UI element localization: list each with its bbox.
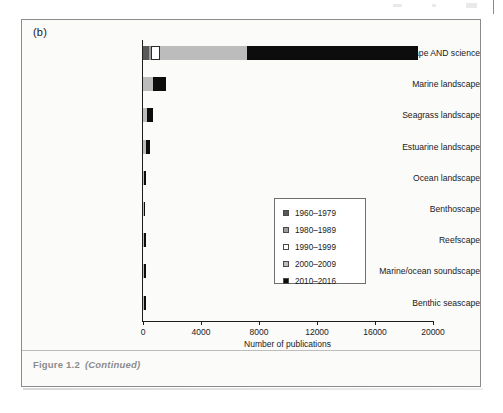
stacked-bar[interactable] — [143, 171, 146, 185]
bar-segment — [144, 233, 146, 247]
legend-label: 1960–1979 — [295, 209, 336, 218]
legend-label: 2010–2016 — [295, 277, 336, 286]
legend-item[interactable]: 1960–1979 — [283, 205, 365, 221]
scan-speck — [466, 3, 477, 8]
x-axis-tick — [375, 321, 376, 325]
y-axis-category-label: Benthic seascape — [364, 290, 480, 316]
stacked-bar[interactable] — [143, 264, 146, 278]
caption-divider — [22, 350, 480, 351]
x-axis-tick — [259, 321, 260, 325]
y-axis-line — [142, 40, 143, 321]
legend-item[interactable]: 2010–2016 — [283, 273, 365, 289]
bar-segment — [146, 140, 151, 154]
figure-shadow — [23, 388, 483, 390]
stacked-bar[interactable] — [143, 108, 153, 122]
stacked-bar[interactable] — [143, 77, 166, 91]
x-axis-tick — [143, 321, 144, 325]
bar-segment — [160, 46, 247, 60]
x-axis-tick-label: 16000 — [363, 327, 387, 337]
stacked-bar[interactable] — [143, 296, 146, 310]
chart-category-row: Reefscape — [22, 227, 480, 253]
y-axis-category-label: Ocean landscape — [364, 165, 480, 191]
y-axis-category-label: Marine landscape — [364, 71, 480, 97]
bar-segment — [144, 264, 146, 278]
y-axis-category-label: Marine/ocean soundscape — [364, 258, 480, 284]
y-axis-category-label: Seagrass landscape — [364, 102, 480, 128]
chart-category-row: Estuarine landscape — [22, 134, 480, 160]
chart-category-row: Marine landscape — [22, 71, 480, 97]
bar-segment — [144, 171, 147, 185]
figure-panel: (b) Seascape AND scienceMarine landscape… — [21, 19, 481, 387]
x-axis-tick-label: 0 — [141, 327, 146, 337]
legend-item-list: 1960–19791980–19891990–19992000–20092010… — [283, 205, 365, 289]
page-edge-rule — [493, 0, 494, 14]
chart-plot-area: (b) Seascape AND scienceMarine landscape… — [22, 20, 480, 350]
chart-category-row: Seagrass landscape — [22, 102, 480, 128]
y-axis-category-label: Reefscape — [364, 227, 480, 253]
chart-category-row: Marine/ocean soundscape — [22, 258, 480, 284]
legend-swatch — [283, 227, 289, 233]
panel-label: (b) — [33, 26, 47, 38]
legend-item[interactable]: 2000–2009 — [283, 256, 365, 272]
x-axis-tick — [433, 321, 434, 325]
scan-speck — [432, 4, 436, 7]
figure-caption: Figure 1.2(Continued) — [33, 359, 140, 370]
chart-category-row: Benthoscape — [22, 196, 480, 222]
chart-category-row: Benthic seascape — [22, 290, 480, 316]
bar-segment — [247, 46, 419, 60]
scan-artifact-strip — [0, 0, 503, 14]
legend-label: 1990–1999 — [295, 243, 336, 252]
bar-segment — [144, 296, 146, 310]
x-axis-tick — [201, 321, 202, 325]
figure-caption-continued: (Continued) — [85, 359, 141, 370]
legend-item[interactable]: 1980–1989 — [283, 222, 365, 238]
x-axis-tick-label: 4000 — [192, 327, 211, 337]
chart-category-row: Ocean landscape — [22, 165, 480, 191]
y-axis-category-label: Benthoscape — [364, 196, 480, 222]
bar-segment — [151, 46, 160, 60]
bar-segment — [153, 77, 166, 91]
x-axis-tick-label: 12000 — [305, 327, 329, 337]
y-axis-category-label: Estuarine landscape — [364, 134, 480, 160]
x-axis-title: Number of publications — [142, 339, 433, 349]
bar-segment — [144, 202, 146, 216]
x-axis-tick-label: 8000 — [250, 327, 269, 337]
legend-swatch — [283, 210, 289, 216]
x-axis-tick — [317, 321, 318, 325]
legend-label: 2000–2009 — [295, 260, 336, 269]
legend-item[interactable]: 1990–1999 — [283, 239, 365, 255]
stacked-bar[interactable] — [143, 140, 150, 154]
chart-legend: 1960–19791980–19891990–19992000–20092010… — [274, 198, 366, 284]
bar-segment — [147, 108, 153, 122]
legend-swatch — [283, 261, 289, 267]
legend-label: 1980–1989 — [295, 226, 336, 235]
x-axis-line — [142, 321, 433, 322]
legend-swatch — [283, 278, 289, 284]
bar-segment — [143, 77, 153, 91]
stacked-bar[interactable] — [143, 202, 145, 216]
stacked-bar[interactable] — [143, 46, 418, 60]
figure-caption-number: Figure 1.2 — [33, 359, 80, 370]
legend-swatch — [283, 244, 289, 250]
stacked-bar[interactable] — [143, 233, 146, 247]
chart-category-row: Seascape AND science — [22, 40, 480, 66]
x-axis-tick-label: 20000 — [421, 327, 445, 337]
scan-speck — [393, 4, 402, 7]
